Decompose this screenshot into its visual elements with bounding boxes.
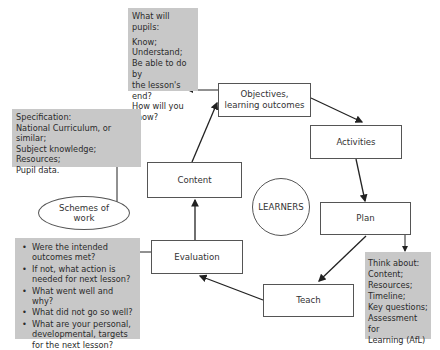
pupils-box-line: Be able to do by bbox=[132, 58, 194, 80]
node-objectives: Objectives, learning outcomes bbox=[218, 83, 311, 117]
node-teach-label: Teach bbox=[296, 295, 321, 306]
specification-line: Resources; bbox=[16, 154, 137, 165]
schemes-line2: work bbox=[74, 213, 95, 223]
node-evaluation-label: Evaluation bbox=[174, 252, 219, 263]
think-box-line: Think about: bbox=[368, 258, 428, 269]
pupils-box-line: Know; bbox=[132, 37, 194, 48]
node-teach: Teach bbox=[263, 284, 354, 317]
pupils-box-line: How will you bbox=[132, 101, 194, 112]
evaluation-questions-list: Were the intended outcomes met? If not, … bbox=[21, 242, 136, 350]
node-objectives-line1: Objectives, bbox=[241, 89, 289, 100]
specification-line: Subject knowledge; bbox=[16, 144, 137, 155]
learners-circle: LEARNERS bbox=[252, 178, 310, 236]
evaluation-question: If not, what action is needed for next l… bbox=[32, 264, 136, 285]
think-box-line: Content; bbox=[368, 269, 428, 280]
evaluation-question: What are your personal, developmental, t… bbox=[32, 319, 136, 350]
think-box-line: Resources; bbox=[368, 280, 428, 291]
arrow-content-to-objectives bbox=[192, 103, 217, 162]
specification-box: Specification: National Curriculum, or s… bbox=[12, 109, 141, 167]
think-box-line: Key questions; bbox=[368, 302, 428, 313]
think-box-line: Assessment for bbox=[368, 313, 428, 335]
evaluation-question: What went well and why? bbox=[32, 286, 136, 307]
pupils-box-line: Understand; bbox=[132, 47, 194, 58]
evaluation-question: Were the intended outcomes met? bbox=[32, 242, 136, 263]
arrow-plan-to-teach bbox=[319, 236, 366, 281]
node-content: Content bbox=[147, 162, 242, 198]
node-plan: Plan bbox=[320, 202, 411, 235]
specification-line: National Curriculum, or similar; bbox=[16, 123, 137, 144]
pupils-box-line: know? bbox=[132, 112, 194, 123]
node-objectives-line2: learning outcomes bbox=[225, 100, 305, 111]
node-activities-label: Activities bbox=[336, 137, 375, 148]
evaluation-question: What did not go so well? bbox=[32, 307, 136, 317]
node-plan-label: Plan bbox=[356, 213, 374, 224]
think-about-box: Think about: Content; Resources; Timelin… bbox=[365, 252, 431, 339]
schemes-line1: Schemes of bbox=[59, 203, 109, 213]
think-box-line: Timeline; bbox=[368, 291, 428, 302]
think-box-line: Learning (AfL) bbox=[368, 335, 428, 346]
pupils-box-heading: What will pupils: bbox=[132, 11, 194, 33]
node-content-label: Content bbox=[177, 175, 211, 186]
node-activities: Activities bbox=[310, 125, 402, 159]
arrow-teach-to-evaluation bbox=[200, 276, 263, 300]
schemes-of-work-ellipse: Schemes of work bbox=[38, 196, 130, 230]
specification-line: Specification: bbox=[16, 112, 137, 123]
node-evaluation: Evaluation bbox=[151, 240, 243, 274]
evaluation-questions-box: Were the intended outcomes met? If not, … bbox=[15, 238, 140, 339]
pupils-box-line: the lesson's end? bbox=[132, 80, 194, 102]
arrow-objectives-to-activities bbox=[311, 98, 362, 122]
pupils-outcomes-box: What will pupils: Know; Understand; Be a… bbox=[128, 8, 198, 91]
arrow-activities-to-plan bbox=[356, 159, 365, 201]
learners-label: LEARNERS bbox=[258, 202, 303, 212]
specification-line: Pupil data. bbox=[16, 165, 137, 176]
